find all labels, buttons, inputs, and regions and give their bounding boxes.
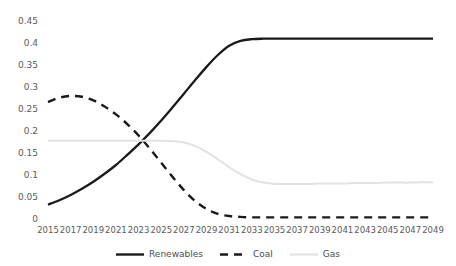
legend-swatch-coal-icon bbox=[220, 250, 248, 259]
chart-legend: Renewables Coal Gas bbox=[0, 244, 456, 264]
series-line-renewables bbox=[48, 39, 433, 205]
legend-label-gas: Gas bbox=[323, 249, 340, 259]
legend-item-gas[interactable]: Gas bbox=[290, 249, 340, 259]
series-line-gas bbox=[48, 141, 433, 184]
series-line-coal bbox=[48, 96, 433, 218]
plot-area bbox=[0, 0, 456, 266]
legend-swatch-gas-icon bbox=[290, 250, 318, 259]
legend-swatch-renewables-icon bbox=[116, 250, 144, 259]
legend-item-coal[interactable]: Coal bbox=[220, 249, 273, 259]
legend-label-renewables: Renewables bbox=[149, 249, 203, 259]
chart-container: 00.050.10.150.20.250.30.350.40.45 201520… bbox=[0, 0, 456, 266]
legend-item-renewables[interactable]: Renewables bbox=[116, 249, 203, 259]
legend-label-coal: Coal bbox=[253, 249, 273, 259]
